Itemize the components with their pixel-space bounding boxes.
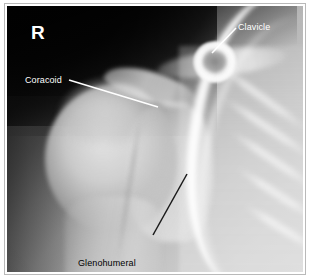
label-glenohumeral-joint: Glenohumeral joint xyxy=(78,237,136,272)
leader-line-glenohumeral-joint xyxy=(153,174,187,235)
label-clavicle: Clavicle xyxy=(238,22,270,33)
annotation-layer: R Clavicle Coracoid Glenohumeral joint xyxy=(7,6,303,272)
radiograph-image: R Clavicle Coracoid Glenohumeral joint xyxy=(7,6,303,272)
xray-figure: R Clavicle Coracoid Glenohumeral joint xyxy=(0,0,310,278)
leader-line-group xyxy=(7,6,303,272)
leader-line-coracoid xyxy=(69,80,158,107)
label-glenohumeral-joint-line1: Glenohumeral xyxy=(78,258,136,269)
side-marker-right: R xyxy=(31,22,45,44)
leader-line-clavicle xyxy=(212,28,236,53)
label-coracoid: Coracoid xyxy=(25,75,62,86)
